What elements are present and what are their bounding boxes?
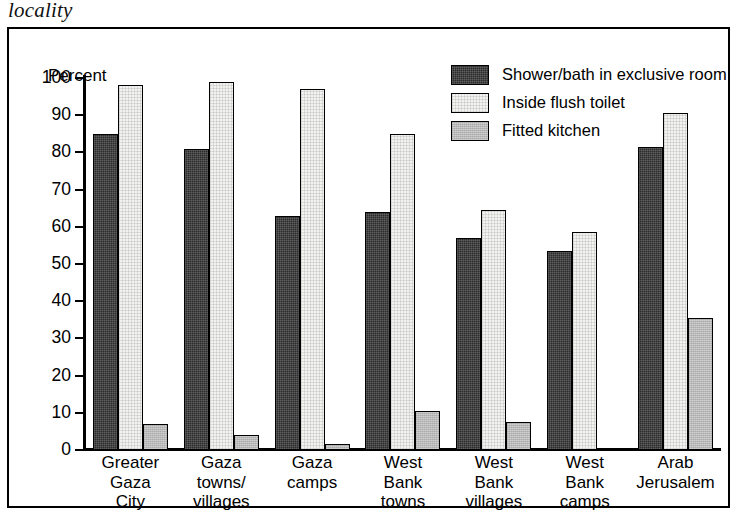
y-axis-tick-label: 50 xyxy=(15,255,71,273)
bar xyxy=(118,85,143,450)
bar xyxy=(184,149,209,450)
x-axis-category-line: camps xyxy=(526,492,643,512)
y-axis-tick xyxy=(75,449,84,451)
page-title: locality xyxy=(8,0,73,23)
bar xyxy=(663,113,688,450)
bar xyxy=(547,251,572,450)
bar xyxy=(93,134,118,450)
bar-group xyxy=(539,29,630,450)
y-axis-tick xyxy=(75,300,84,302)
bar-group xyxy=(630,29,721,450)
y-axis-tick xyxy=(75,226,84,228)
x-axis-category-label: ArabJerusalem xyxy=(617,453,734,492)
y-axis-tick-label: 0 xyxy=(15,441,71,459)
bar xyxy=(234,435,259,450)
bar xyxy=(275,216,300,450)
x-axis-category-line: Jerusalem xyxy=(617,473,734,493)
y-axis-tick-label: 10 xyxy=(15,404,71,422)
bar xyxy=(572,232,597,450)
y-axis-tick-label: 80 xyxy=(15,143,71,161)
bar xyxy=(688,318,713,450)
x-axis-labels: GreaterGazaCityGazatowns/villagesGazacam… xyxy=(85,453,721,513)
y-axis-tick-label: 90 xyxy=(15,106,71,124)
x-axis-category-line: villages xyxy=(163,492,280,512)
y-axis-tick xyxy=(75,412,84,414)
y-axis-tick xyxy=(75,114,84,116)
bar-group xyxy=(358,29,449,450)
y-axis-tick-label: 40 xyxy=(15,292,71,310)
y-axis-tick-label: 20 xyxy=(15,367,71,385)
bar-series-container xyxy=(85,29,721,450)
bar-group xyxy=(448,29,539,450)
bar xyxy=(481,210,506,450)
bar xyxy=(143,424,168,450)
plot-area: 1009080706050403020100 GreaterGazaCityGa… xyxy=(9,29,728,506)
chart-frame: Shower/bath in exclusive room Inside flu… xyxy=(7,27,730,508)
y-axis-tick xyxy=(75,77,84,79)
y-axis-tick xyxy=(75,189,84,191)
bar-group xyxy=(85,29,176,450)
y-axis-tick-label: 70 xyxy=(15,181,71,199)
bar xyxy=(456,238,481,450)
bar xyxy=(365,212,390,450)
bar xyxy=(390,134,415,450)
y-axis-tick xyxy=(75,151,84,153)
bar-group xyxy=(176,29,267,450)
x-axis-category-line: Arab xyxy=(617,453,734,473)
bar xyxy=(300,89,325,450)
bar xyxy=(325,444,350,450)
y-axis-tick-label: 100 xyxy=(15,69,71,87)
y-axis-tick xyxy=(75,375,84,377)
y-axis-tick xyxy=(75,337,84,339)
bar xyxy=(506,422,531,450)
bar xyxy=(638,147,663,450)
bar xyxy=(597,448,622,451)
y-axis-tick-label: 30 xyxy=(15,329,71,347)
bar xyxy=(415,411,440,450)
y-axis-tick xyxy=(75,263,84,265)
y-axis-tick-label: 60 xyxy=(15,218,71,236)
bar-group xyxy=(267,29,358,450)
bar xyxy=(209,82,234,450)
